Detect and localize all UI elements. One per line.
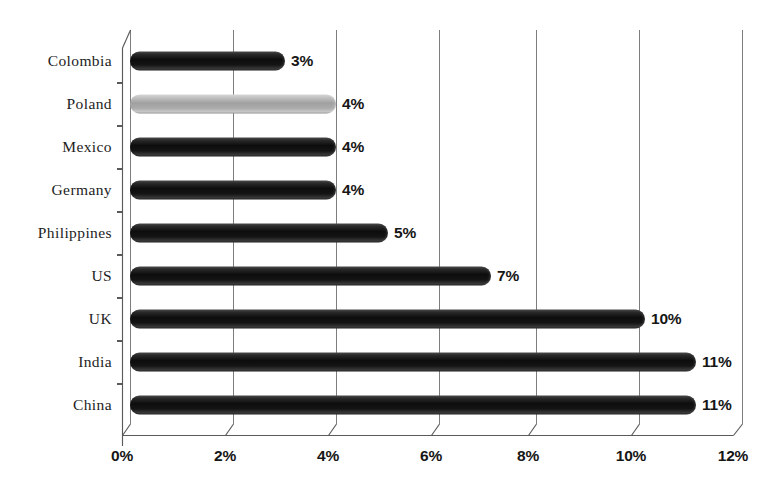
y-axis-label-philippines: Philippines: [0, 225, 112, 241]
y-axis-label-china: China: [0, 397, 112, 413]
value-label-india: 11%: [702, 354, 732, 370]
depth-edge-0: [123, 424, 131, 436]
x-axis-tick-label-10: 10%: [616, 448, 646, 464]
value-label-china: 11%: [702, 397, 732, 413]
bar-uk: [130, 310, 645, 329]
depth-edge-2: [226, 424, 234, 436]
depth-edge-6: [432, 424, 440, 436]
x-axis-tick-label-12: 12%: [718, 448, 748, 464]
y-axis-label-mexico: Mexico: [0, 139, 112, 155]
value-label-germany: 4%: [342, 182, 364, 198]
bar-mexico: [130, 138, 336, 157]
bar-chart: Colombia Poland Mexico Germany Philippin…: [0, 0, 773, 487]
value-label-colombia: 3%: [291, 53, 313, 69]
bar-colombia: [130, 52, 285, 71]
depth-edge-4: [329, 424, 337, 436]
x-axis-tick-label-8: 8%: [517, 448, 539, 464]
bar-us: [130, 267, 491, 286]
bar-poland: [130, 95, 336, 114]
x-axis-tick-label-6: 6%: [420, 448, 442, 464]
y-axis-depth-edge: [123, 30, 131, 48]
y-axis-label-colombia: Colombia: [0, 53, 112, 69]
depth-edge-12: [734, 424, 743, 436]
bar-germany: [130, 181, 336, 200]
bar-india: [130, 353, 696, 372]
bar-china: [130, 396, 696, 415]
x-axis-tick-label-0: 0%: [111, 448, 133, 464]
x-axis-tick-label-4: 4%: [317, 448, 339, 464]
x-axis-tick-label-2: 2%: [214, 448, 236, 464]
y-axis-label-india: India: [0, 354, 112, 370]
value-label-uk: 10%: [651, 311, 681, 327]
y-axis-label-poland: Poland: [0, 96, 112, 112]
depth-edge-10: [632, 424, 640, 436]
value-label-us: 7%: [497, 268, 519, 284]
y-axis-label-uk: UK: [0, 311, 112, 327]
y-axis-label-germany: Germany: [0, 182, 112, 198]
bar-philippines: [130, 224, 388, 243]
depth-edge-8: [529, 424, 537, 436]
value-label-mexico: 4%: [342, 139, 364, 155]
y-axis-label-us: US: [0, 268, 112, 284]
value-label-poland: 4%: [342, 96, 364, 112]
value-label-philippines: 5%: [394, 225, 416, 241]
